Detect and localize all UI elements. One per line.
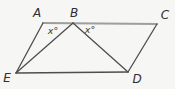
segment-be <box>16 23 73 73</box>
geometry-figure: A B C D E x° x° <box>0 0 175 89</box>
segment-ae <box>16 23 43 73</box>
diagram-svg <box>0 0 175 89</box>
segment-bd <box>73 23 128 72</box>
angle-label-left-x: x° <box>48 26 58 36</box>
vertex-label-a: A <box>33 7 41 19</box>
segment-ed <box>16 72 128 73</box>
segment-cd <box>128 24 157 72</box>
vertex-label-e: E <box>3 72 11 84</box>
angle-label-right-x: x° <box>85 25 95 35</box>
vertex-label-b: B <box>70 7 78 19</box>
segment-ac <box>43 23 157 24</box>
vertex-label-c: C <box>161 9 169 21</box>
vertex-label-d: D <box>132 73 141 85</box>
